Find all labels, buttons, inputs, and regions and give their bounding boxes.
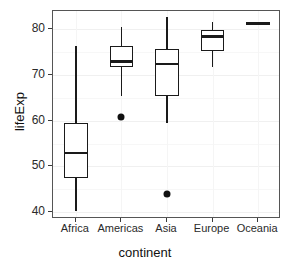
- x-axis-tick-label-europe: Europe: [194, 222, 229, 234]
- y-axis-tick-label: 70: [19, 67, 45, 81]
- boxplot-figure: lifeExp continent 4050607080AfricaAmeric…: [0, 0, 290, 267]
- x-axis-tick-mark: [166, 218, 167, 222]
- y-axis-tick-label: 50: [19, 158, 45, 172]
- y-axis-tick-mark: [48, 211, 52, 212]
- y-axis-tick-mark: [48, 74, 52, 75]
- y-axis-tick-mark: [48, 28, 52, 29]
- y-axis-tick-label: 60: [19, 113, 45, 127]
- box-group-oceania[interactable]: [53, 11, 279, 217]
- x-axis-tick-label-africa: Africa: [61, 222, 89, 234]
- x-axis-tick-mark: [212, 218, 213, 222]
- x-axis-tick-label-oceania: Oceania: [237, 222, 278, 234]
- y-axis-tick-label: 40: [19, 204, 45, 218]
- plot-panel: [52, 10, 280, 218]
- x-axis-tick-label-asia: Asia: [155, 222, 176, 234]
- x-axis-tick-mark: [257, 218, 258, 222]
- x-axis-tick-mark: [75, 218, 76, 222]
- y-axis-tick-mark: [48, 165, 52, 166]
- x-axis-label: continent: [0, 245, 290, 260]
- box-median-bar: [246, 22, 270, 25]
- y-axis-tick-label: 80: [19, 21, 45, 35]
- x-axis-tick-mark: [120, 218, 121, 222]
- x-axis-tick-label-americas: Americas: [97, 222, 143, 234]
- y-axis-tick-mark: [48, 120, 52, 121]
